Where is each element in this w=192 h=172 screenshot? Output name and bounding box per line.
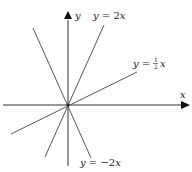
line-y-neg-2x [33, 28, 91, 158]
label-y-2x: y = 2x [92, 10, 126, 21]
x-axis-arrow-icon [181, 101, 190, 109]
line-y-half-x [11, 72, 137, 134]
origin-point [67, 104, 70, 107]
label-half-x-var: x [160, 58, 166, 69]
y-axis-label: y [74, 10, 81, 21]
label-frac-den: 2 [154, 63, 158, 70]
label-y-neg-2x: y = −2x [79, 157, 121, 168]
label-frac-num: 1 [154, 56, 158, 63]
coordinate-diagram: y x y = 2x y = 1 2 x y = −2x [0, 0, 192, 172]
x-axis-label: x [180, 89, 186, 100]
y-axis-arrow-icon [64, 11, 72, 19]
line-y-2x [45, 25, 104, 157]
label-y-half-x: y = [132, 58, 150, 69]
